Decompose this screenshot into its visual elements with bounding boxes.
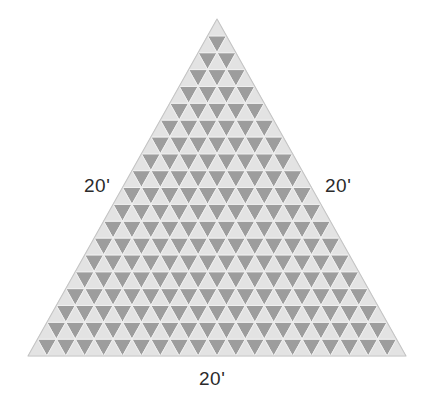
triangle-grid-figure (0, 0, 432, 403)
dimension-label-left: 20' (84, 176, 110, 195)
dimension-label-right: 20' (325, 176, 351, 195)
figure-page: 20' 20' 20' (0, 0, 432, 403)
dimension-label-bottom: 20' (199, 369, 225, 388)
